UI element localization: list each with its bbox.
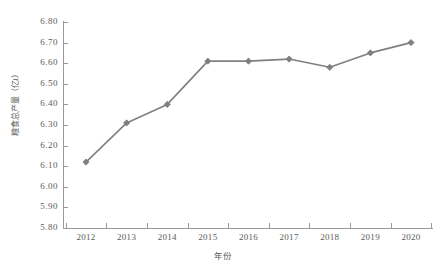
data-point-marker [367,50,373,56]
data-point-marker [286,56,292,62]
line-chart: 粮食总产量（亿t） 6.806.706.606.506.406.306.206.… [0,0,445,272]
data-point-marker [245,58,251,64]
data-point-marker [408,40,414,46]
x-axis-title: 年份 [0,249,445,261]
data-point-marker [327,64,333,70]
data-series-layer [0,0,445,272]
